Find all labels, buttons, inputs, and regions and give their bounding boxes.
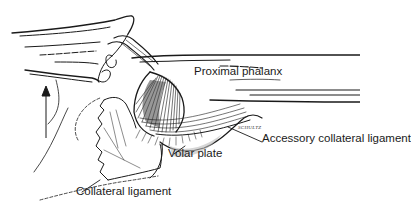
metacarpal-head (98, 34, 128, 82)
motion-arrow-icon (42, 86, 50, 138)
label-accessory-collateral-ligament: Accessory collateral ligament (262, 133, 411, 145)
label-volar-plate: Volar plate (168, 148, 222, 160)
artist-signature: SCHULTZ (238, 125, 261, 130)
leader-lines (82, 127, 262, 192)
label-proximal-phalanx: Proximal phalanx (194, 66, 282, 78)
metacarpal-bone (12, 16, 134, 82)
ligament-shading (143, 80, 166, 128)
label-collateral-ligament: Collateral ligament (76, 186, 171, 198)
curved-guide-line (34, 80, 68, 172)
